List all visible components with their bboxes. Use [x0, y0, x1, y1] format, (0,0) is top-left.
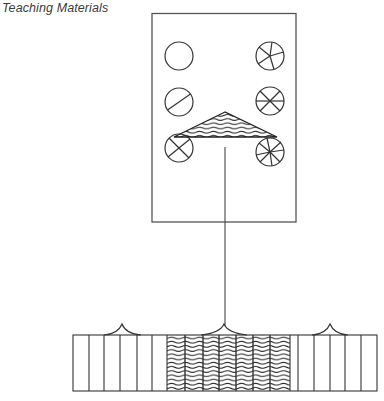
circle-whole-icon — [165, 42, 193, 70]
circle-quarters-icon — [165, 134, 193, 162]
cusp-middle-icon — [201, 324, 247, 335]
cusp-left-icon — [104, 324, 141, 335]
circle-eighths-icon — [256, 138, 284, 166]
circle-fifths-icon — [256, 42, 284, 70]
hatched-triangle-icon — [174, 112, 277, 137]
segmented-strip — [73, 335, 377, 391]
teaching-materials-diagram — [0, 0, 384, 401]
circle-sixths-icon — [256, 87, 284, 115]
circle-halves-icon — [165, 88, 193, 116]
cusp-right-icon — [312, 324, 348, 335]
